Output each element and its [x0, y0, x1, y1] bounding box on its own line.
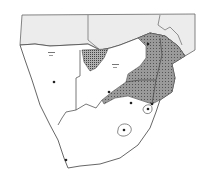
- point-botswana: [108, 91, 111, 94]
- map-canvas: [0, 0, 210, 183]
- point-lesotho: [123, 129, 126, 132]
- point-transvaal: [130, 102, 133, 105]
- label-mark-botswana-2: [113, 67, 117, 68]
- label-mark-botswana: [112, 64, 119, 65]
- point-zimbabwe: [147, 43, 150, 46]
- point-mozambique-south: [151, 103, 154, 106]
- label-mark-namibia-2: [49, 55, 53, 56]
- point-swaziland: [147, 108, 150, 111]
- point-cape: [65, 159, 68, 162]
- label-mark-namibia: [48, 52, 55, 53]
- point-namibia: [53, 81, 56, 84]
